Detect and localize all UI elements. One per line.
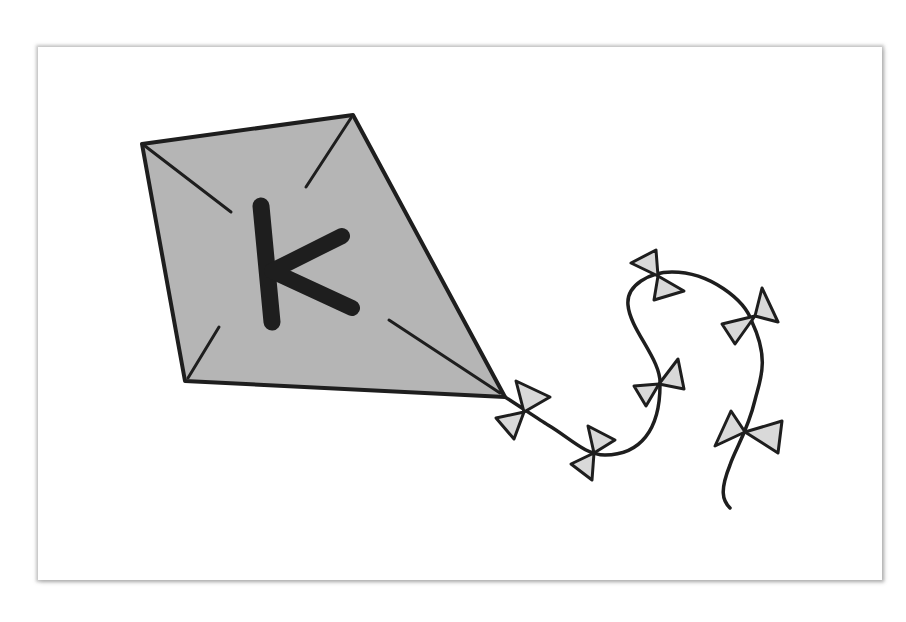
bow-icon [496,381,550,439]
bow-icon [571,426,615,480]
kite-icon [142,115,505,397]
kite-illustration: K [0,0,906,622]
kite-tail-string [505,272,762,508]
bow-icon [631,250,684,300]
bow-icon [722,288,778,344]
kite-letter: K [0,0,11,3]
